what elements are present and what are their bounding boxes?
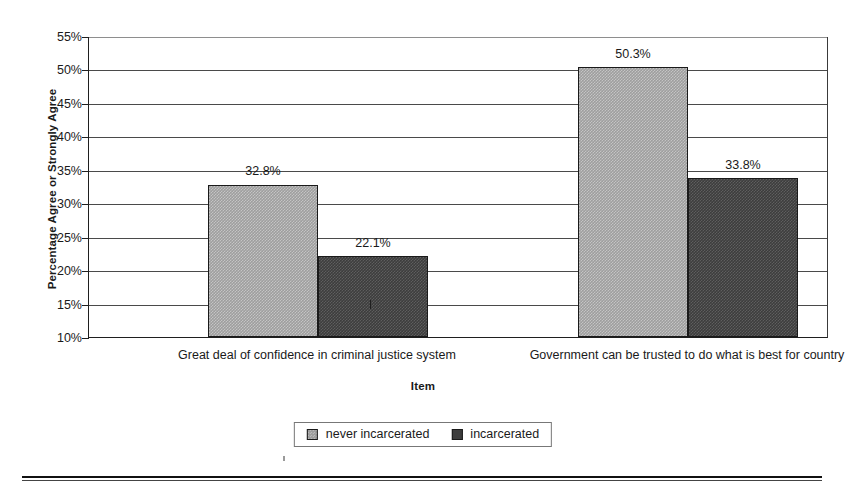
bar-value-label: 32.8% [193, 165, 333, 178]
y-tick-label: 35% [34, 165, 82, 177]
y-tick-label: 30% [34, 198, 82, 210]
x-category-label: Great deal of confidence in criminal jus… [132, 348, 502, 363]
gridline [89, 104, 827, 105]
gridline [89, 137, 827, 138]
gridline [89, 70, 827, 71]
legend-swatch-never-incarcerated [307, 429, 318, 440]
y-tick-label: 50% [34, 64, 82, 76]
x-category-label: Government can be trusted to do what is … [502, 348, 846, 363]
y-tick-label: 15% [34, 299, 82, 311]
footer-rule [22, 476, 822, 478]
legend-item-never-incarcerated[interactable]: never incarcerated [307, 427, 430, 441]
bar-never-incarcerated [578, 67, 688, 337]
page-speck [283, 456, 285, 461]
footer-rule-secondary [22, 480, 822, 481]
legend-swatch-incarcerated [451, 429, 462, 440]
bar-chart-figure: Percentage Agree or Strongly Agree 55%50… [0, 0, 846, 494]
plot-area: 32.8%22.1%50.3%33.8% [88, 37, 828, 338]
x-axis-title: Item [0, 380, 846, 392]
legend-label-incarcerated: incarcerated [470, 427, 539, 441]
bar-value-label: 22.1% [303, 237, 443, 250]
y-tick-label: 40% [34, 131, 82, 143]
bar-incarcerated [318, 256, 428, 337]
y-axis-title: Percentage Agree or Strongly Agree [46, 39, 58, 339]
y-tick-label: 45% [34, 98, 82, 110]
category-divider-tick [370, 300, 371, 309]
y-tick-label: 55% [34, 31, 82, 43]
legend-label-never-incarcerated: never incarcerated [326, 427, 430, 441]
gridline [89, 37, 827, 38]
legend-item-incarcerated[interactable]: incarcerated [451, 427, 539, 441]
y-tick-label: 25% [34, 232, 82, 244]
y-tick-mark [82, 338, 89, 339]
y-tick-label: 20% [34, 265, 82, 277]
bar-value-label: 50.3% [563, 48, 703, 61]
y-tick-label: 10% [34, 332, 82, 344]
bar-value-label: 33.8% [673, 159, 813, 172]
bar-incarcerated [688, 178, 798, 337]
chart-legend: never incarcerated incarcerated [294, 422, 552, 447]
bar-never-incarcerated [208, 185, 318, 338]
